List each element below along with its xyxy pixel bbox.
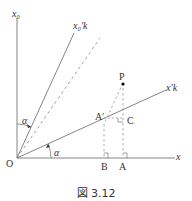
- spacetime-diagram: x₀ x₀′k x′k x O P A′ C B A α α 図 3.12: [0, 0, 192, 201]
- x0-prime-k-line: [17, 33, 74, 158]
- angle-alpha-lower-label: α: [54, 148, 59, 158]
- origin-label: O: [6, 159, 13, 169]
- diagram-lines: [0, 0, 192, 201]
- point-b-label: B: [101, 162, 108, 172]
- right-angle-c: [118, 118, 123, 122]
- angle-alpha-upper-label: α: [22, 116, 27, 126]
- right-angle-b: [104, 153, 108, 158]
- point-a-label: A: [119, 162, 126, 172]
- point-a-prime-label: A′: [95, 112, 104, 122]
- light-cone-dashed-line: [17, 38, 100, 158]
- figure-caption: 図 3.12: [0, 184, 192, 200]
- point-c-label: C: [127, 116, 134, 126]
- x0-prime-k-label: x₀′k: [73, 21, 88, 31]
- x-axis-label: x: [176, 152, 180, 162]
- point-p-dot: [121, 82, 124, 85]
- right-angle-a: [123, 153, 127, 158]
- arrowhead-upper: [27, 124, 31, 128]
- point-p-label: P: [119, 72, 125, 82]
- x-prime-k-label: x′k: [166, 83, 177, 93]
- x-prime-k-line: [17, 90, 166, 158]
- x0-axis-label: x₀: [12, 9, 20, 19]
